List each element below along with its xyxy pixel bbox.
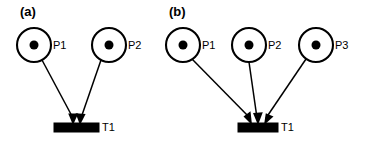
- transition-bar[interactable]: [238, 123, 278, 132]
- transition-label: T1: [281, 121, 294, 133]
- place-label: P1: [202, 39, 215, 51]
- transition-b-t1[interactable]: T1: [238, 121, 294, 133]
- place-label: P2: [128, 39, 141, 51]
- transition-bar[interactable]: [54, 123, 99, 132]
- token-dot: [245, 41, 254, 50]
- petri-net-figure: (a) P1 P2: [0, 0, 376, 143]
- token-dot: [179, 41, 188, 50]
- token-dot: [312, 41, 321, 50]
- token-dot: [30, 41, 39, 50]
- panel-a-caption: (a): [20, 4, 36, 19]
- place-label: P2: [268, 39, 281, 51]
- figure-background: [0, 0, 376, 143]
- transition-a-t1[interactable]: T1: [54, 121, 115, 133]
- place-label: P3: [335, 39, 348, 51]
- token-dot: [105, 41, 114, 50]
- petri-net-canvas: (a) P1 P2: [0, 0, 376, 143]
- place-label: P1: [53, 39, 66, 51]
- panel-b-caption: (b): [169, 4, 186, 19]
- transition-label: T1: [102, 121, 115, 133]
